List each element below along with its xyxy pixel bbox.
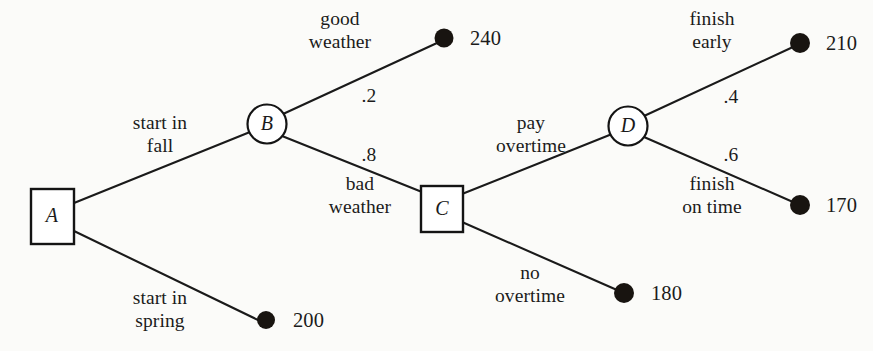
payoff-label-240: 240 (470, 27, 501, 51)
node-label-c: C (435, 197, 448, 220)
terminal-dot-200[interactable] (257, 311, 275, 329)
probability-label-bad-weather: .8 (362, 144, 377, 167)
node-label-d: D (621, 114, 636, 137)
edge-label-line1: start in (133, 112, 187, 133)
edge-label-line2: on time (682, 196, 742, 219)
edge-label-line1: pay (517, 112, 545, 133)
edge-label-line1: good (320, 8, 359, 29)
edge-label-pay-overtime: pay overtime (496, 112, 566, 157)
edge-label-line2: spring (133, 310, 187, 333)
terminal-dot-210[interactable] (790, 33, 810, 53)
edge-label-line2: overtime (495, 285, 565, 308)
edge-line-b-t240[interactable] (283, 43, 437, 114)
edge-label-start-in-fall: start in fall (133, 112, 187, 157)
edge-label-line1: bad (346, 173, 374, 194)
edge-label-no-overtime: no overtime (495, 262, 565, 307)
probability-label-finish-on-time: .6 (724, 144, 739, 167)
edge-label-bad-weather: bad weather (329, 173, 391, 218)
edge-label-line2: overtime (496, 135, 566, 158)
edge-label-line2: weather (329, 196, 391, 219)
edge-label-line1: finish (689, 173, 734, 194)
edge-label-start-in-spring: start in spring (133, 287, 187, 332)
tree-canvas (0, 0, 873, 351)
edge-label-good-weather: good weather (309, 8, 371, 53)
terminal-dot-240[interactable] (435, 29, 454, 48)
payoff-label-210: 210 (826, 32, 857, 56)
edge-label-line2: fall (133, 135, 187, 158)
edge-label-finish-early: finish early (689, 8, 734, 53)
edge-label-line2: early (689, 31, 734, 54)
edge-line-d-t210[interactable] (644, 47, 793, 116)
edge-label-line1: finish (689, 8, 734, 29)
edge-label-line1: start in (133, 287, 187, 308)
node-label-b: B (261, 112, 273, 135)
probability-label-finish-early: .4 (724, 86, 739, 109)
payoff-label-170: 170 (826, 194, 857, 218)
probability-label-good-weather: .2 (362, 85, 377, 108)
payoff-label-200: 200 (293, 309, 324, 333)
edge-label-finish-on-time: finish on time (682, 173, 742, 218)
terminal-dot-170[interactable] (790, 195, 810, 215)
node-label-a: A (46, 204, 58, 227)
edge-label-line2: weather (309, 31, 371, 54)
decision-tree-diagram: A B C D start in fall start in spring go… (0, 0, 873, 351)
terminal-dot-180[interactable] (614, 283, 634, 303)
edge-label-line1: no (520, 262, 540, 283)
payoff-label-180: 180 (651, 282, 682, 306)
